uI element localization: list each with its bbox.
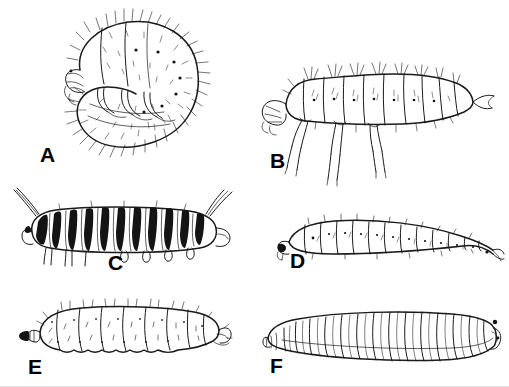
panel-c-illustration [14,186,244,266]
panel-e-illustration [18,298,233,363]
panel-label-a: A [40,144,55,165]
panel-label-d: D [290,250,305,271]
panel-label-e: E [28,356,42,377]
panel-a-illustration [40,8,220,158]
figure-plate: A [0,0,509,387]
panel-label-b: B [270,150,285,171]
panel-label-f: F [270,355,283,376]
panel-f-illustration [262,300,502,370]
panel-label-c: C [108,252,123,273]
panel-b-illustration [258,38,498,163]
panel-d-illustration [275,208,505,268]
